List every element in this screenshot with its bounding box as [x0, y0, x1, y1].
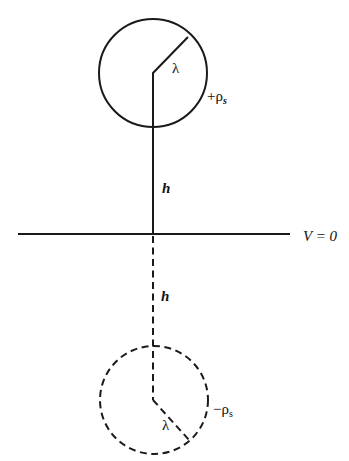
- lower-charge-label: −ρs: [213, 401, 233, 419]
- lower-height-label: h: [161, 288, 169, 304]
- upper-charge-label: +ρs: [207, 88, 227, 106]
- image-charge-diagram: λ +ρs h V = 0 h λ −ρs: [0, 0, 349, 461]
- lower-radius-label: λ: [162, 417, 170, 433]
- plane-potential-label: V = 0: [303, 228, 338, 244]
- upper-radius-and-height-line: [153, 37, 188, 234]
- upper-radius-label: λ: [172, 60, 180, 76]
- upper-height-label: h: [162, 180, 170, 196]
- lower-radius-dashed-line: [153, 400, 189, 440]
